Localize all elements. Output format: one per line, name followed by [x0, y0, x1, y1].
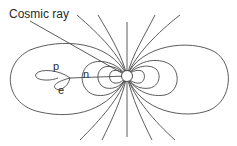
electron-label: e — [58, 85, 64, 96]
neutron-label: n — [83, 69, 89, 80]
nucleus — [122, 71, 133, 82]
cosmic-ray-track — [30, 21, 127, 76]
particle-tracks — [36, 71, 127, 90]
proton-label: p — [53, 61, 59, 72]
cosmic-ray-diagram — [0, 0, 237, 146]
radiating-lines-top — [77, 15, 180, 76]
cosmic-ray-label: Cosmic ray — [9, 8, 69, 20]
